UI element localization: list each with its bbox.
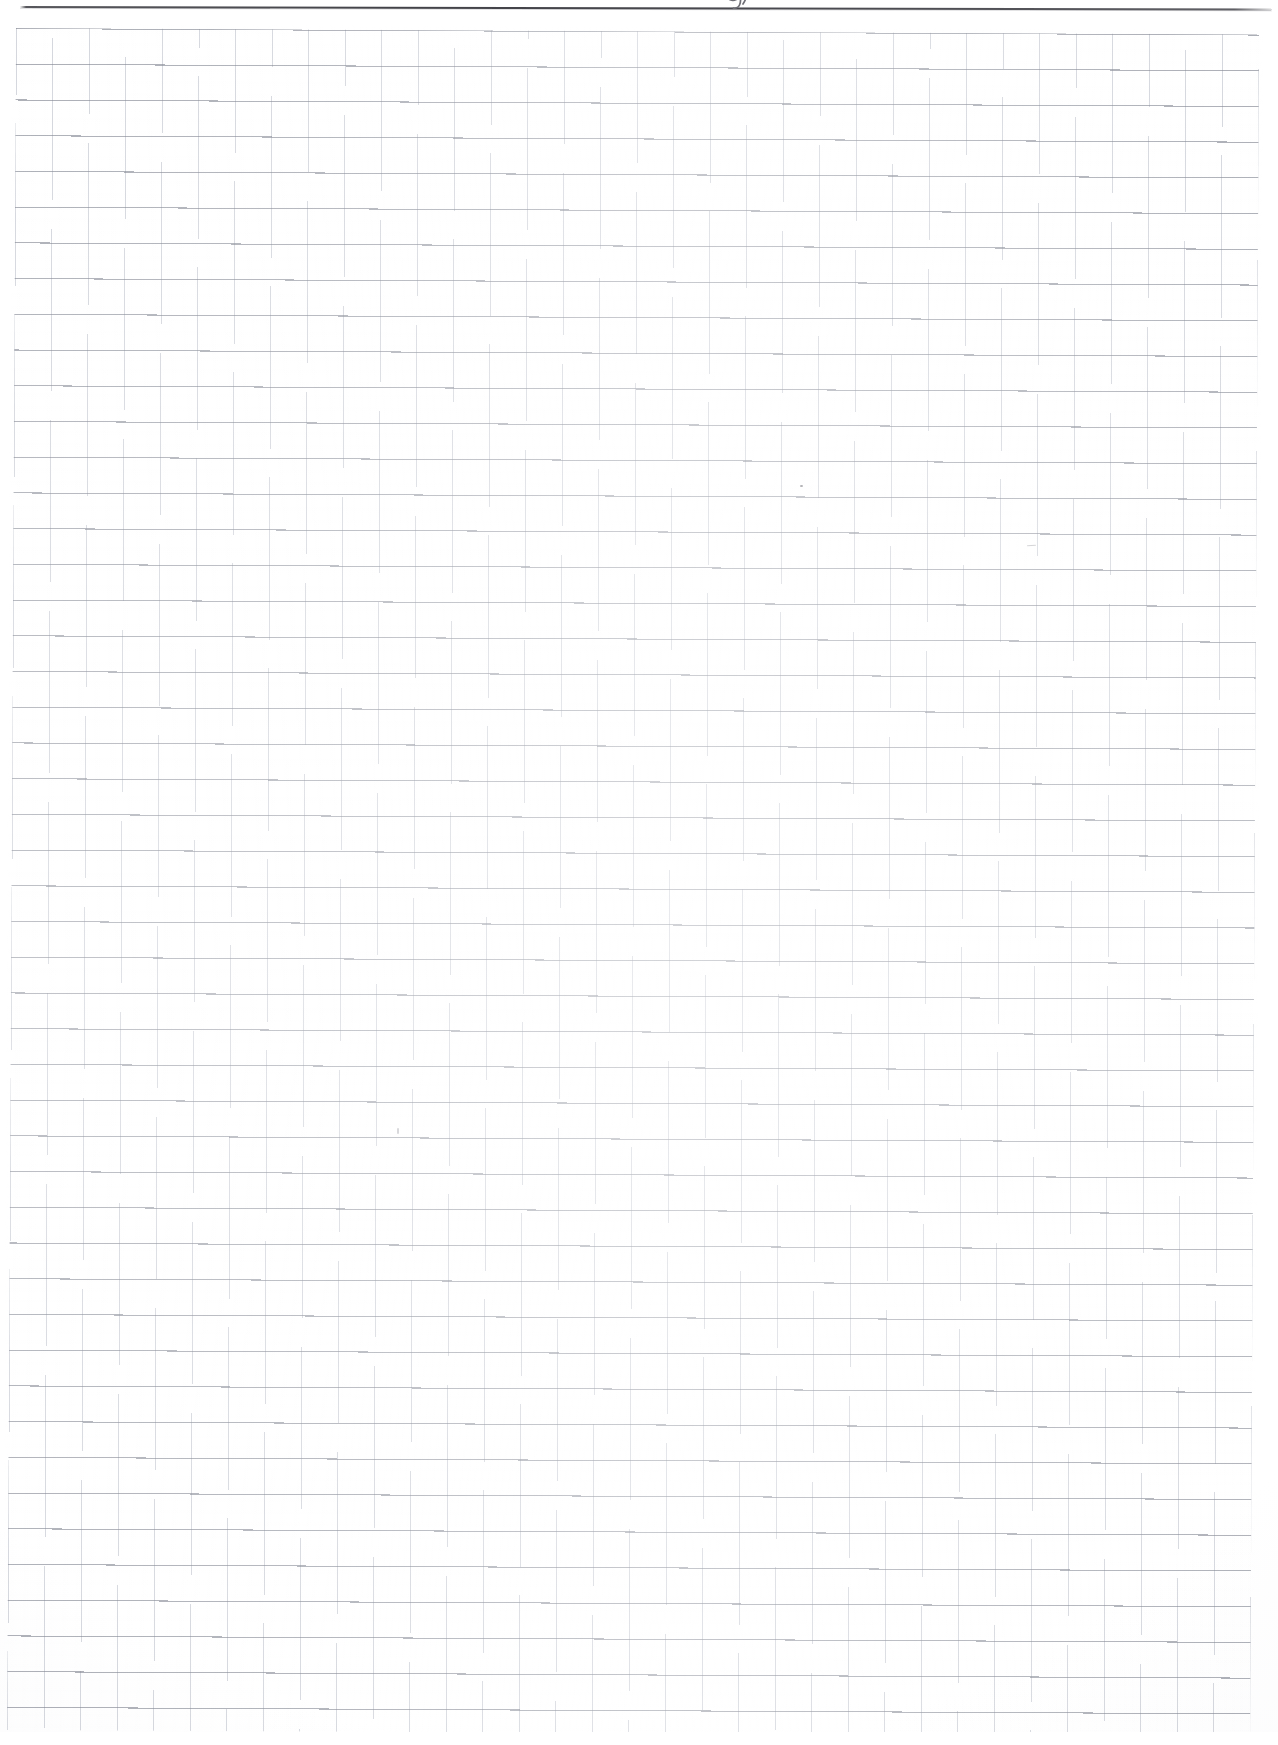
ruled-margin-line — [20, 6, 1272, 11]
bottom-page-margin — [0, 1732, 1278, 1745]
graph-paper-grid — [0, 0, 1278, 1745]
top-margin-rule-area — [0, 0, 1278, 26]
grid-sheet — [7, 28, 1259, 1736]
scanned-page — [0, 0, 1278, 1745]
grid-horizontal-rules — [7, 28, 1259, 1736]
